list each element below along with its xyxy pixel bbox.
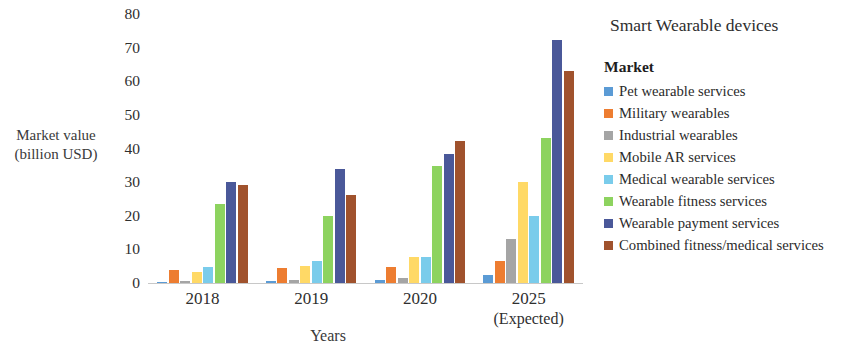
legend-swatch-icon [604,241,613,250]
bar[interactable] [238,185,248,283]
legend-item[interactable]: Military wearables [604,102,854,124]
legend-swatch-icon [604,219,613,228]
bar[interactable] [444,154,454,283]
bar[interactable] [495,261,505,283]
x-axis-tick-label: 2020 [366,288,475,309]
bar[interactable] [386,267,396,283]
bar[interactable] [335,169,345,283]
y-axis-tick-labels: 01020304050607080 [104,0,140,300]
legend-swatch-icon [604,153,613,162]
y-axis-title: Market value (billion USD) [4,126,108,164]
y-axis-tick-label: 40 [104,141,140,157]
legend-item[interactable]: Pet wearable services [604,80,854,102]
y-axis-tick-label: 20 [104,208,140,224]
bar[interactable] [541,138,551,283]
bar[interactable] [203,267,213,283]
bar[interactable] [552,40,562,283]
chart-title: Smart Wearable devices [610,14,778,36]
legend-item[interactable]: Combined fitness/medical services [604,234,854,256]
legend-item-label: Military wearables [619,105,730,122]
y-axis-tick-label: 80 [104,6,140,22]
bar[interactable] [398,278,408,283]
bar[interactable] [277,268,287,283]
legend-item-label: Industrial wearables [619,127,738,144]
x-axis-tick-label: 2018 [148,288,257,309]
bar[interactable] [169,270,179,283]
x-axis-tick-label-year: 2018 [185,289,219,308]
y-axis-tick-label: 60 [104,74,140,90]
x-axis-tick-label: 2025(Expected) [474,288,583,329]
bar[interactable] [455,141,465,283]
bar-group [474,14,583,283]
bar[interactable] [323,216,333,283]
x-axis-title: Years [268,327,388,345]
y-axis-title-line2: (billion USD) [4,145,108,164]
x-axis-tick-label-sublabel: (Expected) [474,309,583,329]
x-axis-tick-label-year: 2020 [403,289,437,308]
bar[interactable] [192,272,202,283]
legend-panel: Smart Wearable devices Market Pet wearab… [604,0,854,352]
bar[interactable] [564,71,574,283]
y-axis-title-line1: Market value [4,126,108,145]
legend-items: Pet wearable servicesMilitary wearablesI… [604,80,854,256]
legend-item[interactable]: Wearable fitness services [604,190,854,212]
bar-group [148,14,257,283]
y-axis-tick-label: 70 [104,40,140,56]
y-axis-tick-label: 50 [104,107,140,123]
plot-area [148,14,583,283]
legend-item[interactable]: Mobile AR services [604,146,854,168]
bar-group [366,14,475,283]
y-axis-tick-label: 30 [104,174,140,190]
bar[interactable] [421,257,431,283]
legend-item-label: Wearable payment services [619,215,779,232]
legend-swatch-icon [604,131,613,140]
y-axis-tick-label: 10 [104,242,140,258]
bar[interactable] [375,280,385,283]
x-axis-tick-label-year: 2025 [512,289,546,308]
bar[interactable] [312,261,322,283]
bar-group [257,14,366,283]
bar[interactable] [506,239,516,283]
bar[interactable] [180,281,190,283]
legend-item-label: Combined fitness/medical services [619,237,824,254]
legend-swatch-icon [604,175,613,184]
bar[interactable] [266,281,276,283]
legend-item-label: Mobile AR services [619,149,736,166]
chart-figure: Market value (billion USD) 0102030405060… [0,0,854,352]
bar[interactable] [226,182,236,283]
bar[interactable] [409,257,419,283]
legend-swatch-icon [604,87,613,96]
x-axis-tick-label-year: 2019 [294,289,328,308]
bar[interactable] [215,204,225,283]
legend-item[interactable]: Industrial wearables [604,124,854,146]
bar[interactable] [529,216,539,283]
x-axis-tick-label: 2019 [257,288,366,309]
legend-swatch-icon [604,109,613,118]
y-axis-tick-label: 0 [104,275,140,291]
bar[interactable] [518,182,528,283]
bar[interactable] [432,166,442,283]
bar[interactable] [346,195,356,283]
legend-item-label: Wearable fitness services [619,193,767,210]
legend-item[interactable]: Medical wearable services [604,168,854,190]
legend-item-label: Medical wearable services [619,171,775,188]
bar[interactable] [289,280,299,283]
legend-item[interactable]: Wearable payment services [604,212,854,234]
x-axis-line [148,283,583,284]
legend-swatch-icon [604,197,613,206]
bar[interactable] [157,282,167,284]
legend-title: Market [604,58,654,76]
legend-item-label: Pet wearable services [619,83,745,100]
bar[interactable] [483,275,493,283]
bar[interactable] [300,266,310,283]
